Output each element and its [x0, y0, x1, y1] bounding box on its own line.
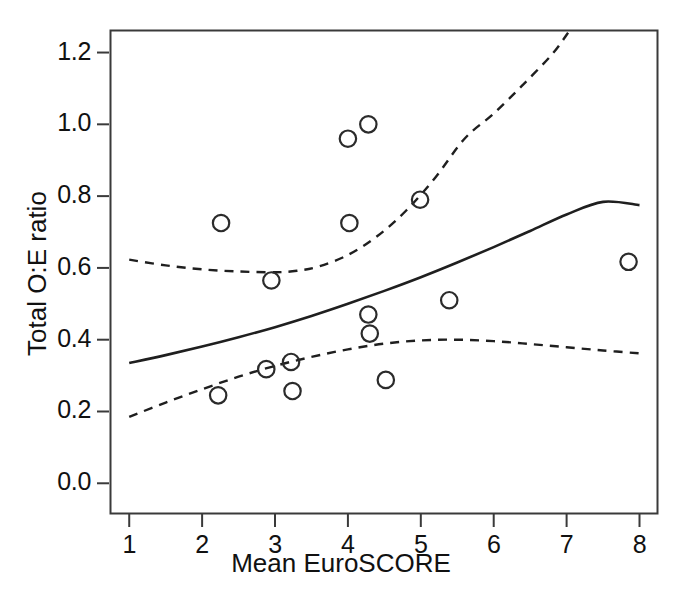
y-tick-label: 1.0 [0, 108, 91, 137]
data-point-marker [263, 272, 279, 288]
y-tick-label: 0.2 [0, 395, 91, 424]
scatter-plot-figure: 12345678 0.00.20.40.60.81.01.2 Total O:E… [0, 0, 682, 593]
data-point-marker [210, 387, 226, 403]
fitted-regression-line [129, 202, 639, 364]
data-point-marker [360, 306, 376, 322]
x-axis-title: Mean EuroSCORE [0, 548, 682, 579]
data-point-marker [378, 372, 394, 388]
data-point-marker [284, 383, 300, 399]
data-point-marker [213, 215, 229, 231]
series-curves [129, 33, 639, 417]
x-axis-ticks [129, 514, 639, 527]
lower-confidence-bound [129, 340, 639, 417]
data-point-marker [412, 192, 428, 208]
data-points [210, 116, 637, 403]
plot-canvas [0, 0, 682, 593]
data-point-marker [441, 292, 457, 308]
data-point-marker [360, 116, 376, 132]
y-tick-label: 1.2 [0, 37, 91, 66]
data-point-marker [362, 325, 378, 341]
y-axis-title: Total O:E ratio [22, 149, 53, 399]
upper-confidence-bound [129, 33, 568, 272]
y-tick-label: 0.0 [0, 467, 91, 496]
data-point-marker [341, 215, 357, 231]
y-axis-ticks [97, 53, 109, 484]
axis-frame [111, 31, 658, 514]
data-point-marker [620, 254, 636, 270]
data-point-marker [340, 130, 356, 146]
data-point-marker [283, 354, 299, 370]
